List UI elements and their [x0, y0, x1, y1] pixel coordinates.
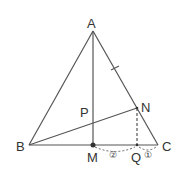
point-m-dot [91, 143, 96, 148]
label-n: N [141, 100, 150, 115]
point-q-dot [136, 144, 139, 147]
label-a: A [87, 16, 96, 31]
point-n-dot [136, 107, 139, 110]
label-q: Q [131, 150, 141, 165]
ratio-label-qc: ① [144, 150, 152, 160]
label-m: M [87, 150, 98, 165]
triangle-diagram: A B C M N Q P ② ① [0, 0, 185, 174]
side-ac [93, 31, 158, 145]
ratio-label-mq: ② [109, 150, 117, 160]
label-b: B [16, 139, 25, 154]
label-p: P [80, 105, 89, 120]
side-ab [29, 31, 93, 145]
label-c: C [162, 139, 171, 154]
